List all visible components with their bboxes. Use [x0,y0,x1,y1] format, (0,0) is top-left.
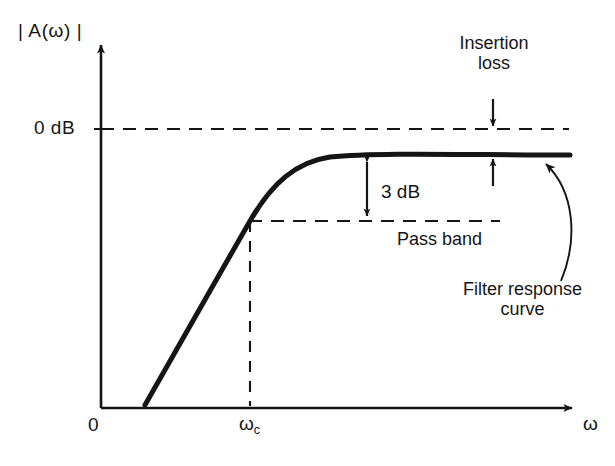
filter-response-label-line2: curve [500,299,544,319]
cutoff-frequency-label-subscript: c [254,423,260,437]
cutoff-frequency-label-base: ω [239,413,254,434]
y-axis-label: | A(ω) | [18,20,82,41]
pass-band-label: Pass band [397,229,482,249]
filter-response-leader-line [546,164,571,281]
origin-label: 0 [88,414,99,435]
three-db-label: 3 dB [381,181,420,202]
insertion-loss-label: Insertionloss [433,33,555,73]
filter-response-label-line1: Filter response [463,279,582,299]
insertion-loss-label-line1: Insertion [459,33,528,53]
filter-response-label: Filter responsecurve [440,279,605,319]
x-axis-label: ω [583,413,598,434]
insertion-loss-label-line2: loss [478,53,510,73]
y-axis-0db-label: 0 dB [34,117,75,138]
filter-response-figure: | A(ω) | 0 dB 0 ωc ω Insertionloss 3 dB … [0,0,615,466]
cutoff-frequency-label: ωc [239,413,260,437]
